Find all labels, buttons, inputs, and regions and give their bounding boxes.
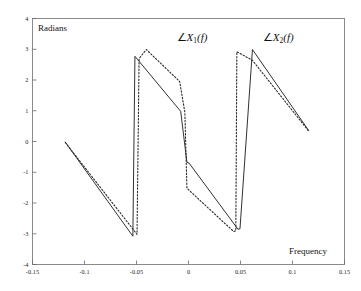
angle-symbol-2: ∠ xyxy=(263,31,273,43)
x-tick-label: -0.05 xyxy=(122,268,152,275)
y-tick-label: -3 xyxy=(7,230,29,237)
plot-frame xyxy=(33,19,345,265)
series-label-x2: ∠X2(f) xyxy=(263,31,294,45)
figure-canvas: 43210-1-2-3-4 -0.15-0.1-0.0500.050.10.15… xyxy=(0,0,361,291)
series2-variable: X xyxy=(273,31,280,43)
y-tick-label: 1 xyxy=(7,107,29,114)
y-tick-label: 3 xyxy=(7,45,29,52)
x-tick-label: 0.1 xyxy=(278,268,308,275)
y-tick-label: -4 xyxy=(7,261,29,268)
angle-symbol-1: ∠ xyxy=(177,31,187,43)
series1-argument: (f) xyxy=(197,31,207,43)
y-tick-label: 0 xyxy=(7,138,29,145)
x-tick-label: -0.15 xyxy=(18,268,48,275)
x-tick-label: -0.1 xyxy=(70,268,100,275)
y-tick-label: -1 xyxy=(7,168,29,175)
x-axis-title: Frequency xyxy=(289,246,327,256)
y-tick-label: -2 xyxy=(7,199,29,206)
series2-argument: (f) xyxy=(283,31,293,43)
y-tick-label: 4 xyxy=(7,15,29,22)
x-tick-label: 0 xyxy=(174,268,204,275)
y-axis-title: Radians xyxy=(38,23,67,33)
y-tick-label: 2 xyxy=(7,76,29,83)
x-tick-label: 0.05 xyxy=(226,268,256,275)
x-tick-label: 0.15 xyxy=(330,268,360,275)
series-label-x1: ∠X1(f) xyxy=(177,31,208,45)
